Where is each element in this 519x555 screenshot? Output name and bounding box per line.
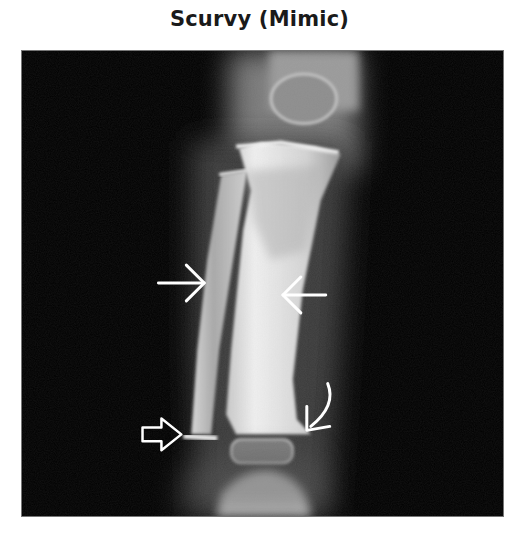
xray-illustration (22, 51, 503, 516)
xray-image (21, 50, 504, 517)
figure-title: Scurvy (Mimic) (0, 7, 519, 31)
